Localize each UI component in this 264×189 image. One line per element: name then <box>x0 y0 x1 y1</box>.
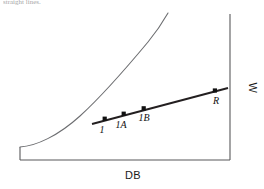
state-point-marker-1a <box>122 112 126 116</box>
state-point-label-r: R <box>212 95 219 106</box>
x-axis-label: DB <box>125 169 141 181</box>
state-point-label-1: 1 <box>100 124 105 135</box>
state-point-marker-1b <box>142 106 146 110</box>
psychrometric-chart: 1 1A 1B R DB W <box>0 0 264 189</box>
process-line <box>92 88 228 124</box>
state-point-label-1b: 1B <box>138 112 149 123</box>
figure-root: straight lines. 1 1A 1B R DB W <box>0 0 264 189</box>
saturation-curve <box>20 13 168 147</box>
state-point-marker-1 <box>103 117 107 121</box>
state-point-label-1a: 1A <box>115 119 127 130</box>
y-axis-label: W <box>247 83 259 94</box>
state-point-marker-r <box>213 88 217 92</box>
